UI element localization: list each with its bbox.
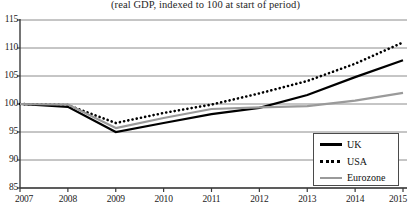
x-tick-label-2011: 2011 [195, 194, 229, 204]
series-line-uk [20, 60, 403, 132]
gdp-index-line-chart: (real GDP, indexed to 100 at start of pe… [0, 0, 411, 220]
y-tick-label-90: 90 [0, 154, 18, 164]
x-tick-label-2015: 2015 [381, 194, 411, 204]
x-tick-label-2009: 2009 [99, 194, 133, 204]
y-tick-label-100: 100 [0, 98, 18, 108]
x-tick-label-2010: 2010 [147, 194, 181, 204]
series-line-eurozone [20, 93, 403, 128]
legend-label-eurozone: Eurozone [347, 172, 385, 183]
legend-item-eurozone: Eurozone [320, 170, 385, 184]
legend-label-uk: UK [347, 139, 361, 150]
plot-area [0, 0, 411, 220]
x-tick-label-2014: 2014 [338, 194, 372, 204]
x-tick-label-2008: 2008 [51, 194, 85, 204]
x-tick-label-2012: 2012 [242, 194, 276, 204]
legend-item-usa: USA [320, 154, 367, 168]
y-tick-label-85: 85 [0, 182, 18, 192]
y-tick-label-115: 115 [0, 14, 18, 24]
legend-item-uk: UK [320, 137, 361, 151]
legend-label-usa: USA [347, 156, 367, 167]
chart-legend: UK USA Eurozone [313, 133, 399, 186]
legend-swatch-eurozone-solid-line-icon [320, 172, 342, 182]
x-tick-label-2007: 2007 [7, 194, 41, 204]
y-tick-label-110: 110 [0, 42, 18, 52]
y-tick-label-105: 105 [0, 70, 18, 80]
legend-swatch-usa-dotted-line-icon [320, 156, 342, 166]
legend-swatch-uk-solid-line-icon [320, 139, 342, 149]
x-tick-label-2013: 2013 [290, 194, 324, 204]
y-tick-label-95: 95 [0, 126, 18, 136]
